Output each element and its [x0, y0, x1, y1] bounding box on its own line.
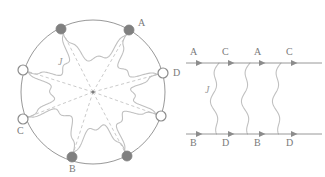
ring-node-label-A: A	[138, 17, 146, 28]
ring-wave-5	[23, 70, 55, 119]
top-line-arrowhead-0	[196, 60, 203, 66]
ring-node-n4-filled	[67, 152, 77, 162]
ladder-panel: ACAC BDBD J	[186, 46, 322, 148]
ladder-coupling-label-J: J	[205, 84, 210, 95]
ring-node-n7-filled	[56, 24, 66, 34]
top-line-labels: ACAC	[190, 46, 293, 57]
ladder-rung-r3	[272, 63, 281, 134]
ring-wave-7	[61, 29, 129, 61]
bottom-line-label-0-B: B	[190, 137, 197, 148]
ring-node-label-D: D	[173, 67, 180, 78]
ring-node-n0-filled	[124, 25, 134, 35]
physics-diagram-figure: ADBC J ACAC BDBD J	[0, 0, 325, 177]
ring-wave-1	[131, 73, 163, 116]
diagram-canvas: ADBC J ACAC BDBD J	[0, 0, 325, 177]
bottom-line-label-1-D: D	[222, 137, 229, 148]
top-line-label-0-A: A	[190, 46, 198, 57]
coupling-label-J: J	[58, 56, 63, 67]
ring-node-n1-open	[158, 68, 168, 78]
bottom-line-label-2-B: B	[254, 137, 261, 148]
ring-node-labels: ADBC	[17, 17, 180, 174]
ring-node-n6-open	[18, 65, 28, 75]
top-line-label-3-C: C	[286, 46, 293, 57]
bottom-line-label-3-D: D	[286, 137, 293, 148]
ladder-wavy-rungs	[210, 63, 281, 134]
top-line-label-2-A: A	[254, 46, 262, 57]
ring-node-n2-open	[156, 111, 166, 121]
bottom-line-labels: BDBD	[190, 137, 293, 148]
ladder-rung-r1	[210, 63, 219, 134]
ladder-rung-r2	[241, 63, 250, 134]
bottom-line-arrowhead-0	[196, 131, 203, 137]
rung-labels: J	[205, 84, 210, 95]
ring-node-label-C: C	[17, 125, 24, 136]
radial-dashed-line-3	[93, 92, 127, 156]
ring-center-point	[91, 90, 94, 93]
top-line-arrowhead-1	[228, 60, 235, 66]
top-line-arrowhead-3	[291, 60, 298, 66]
top-line-arrowhead-2	[259, 60, 266, 66]
ring-node-n5-open	[18, 114, 28, 124]
radial-dashed-line-4	[72, 92, 93, 157]
circle-panel: ADBC J	[17, 17, 180, 174]
ring-node-n3-filled	[122, 151, 132, 161]
top-line-label-1-C: C	[222, 46, 229, 57]
ring-node-label-B: B	[69, 163, 76, 174]
